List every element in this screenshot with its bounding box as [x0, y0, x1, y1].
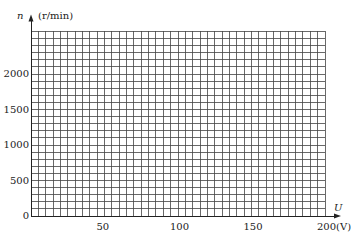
y-tick-label: 500	[10, 176, 29, 186]
x-tick-label: 100	[170, 222, 189, 232]
x-axis-label: U	[334, 203, 342, 213]
axis-arrow-icon	[29, 14, 34, 21]
y-axis-unit: (r/min)	[38, 11, 73, 21]
y-tick-label: 2000	[4, 69, 29, 79]
y-tick-label: 1500	[4, 105, 29, 115]
x-tick-label: 50	[97, 222, 110, 232]
x-tick-label: 200(V)	[317, 222, 351, 232]
axis-arrow-icon	[334, 214, 341, 219]
y-axis-label: n	[17, 11, 23, 21]
x-tick-label: 150	[244, 222, 263, 232]
y-tick-label: 0	[23, 211, 29, 221]
y-tick-label: 1000	[4, 140, 29, 150]
grid-chart	[0, 0, 360, 241]
